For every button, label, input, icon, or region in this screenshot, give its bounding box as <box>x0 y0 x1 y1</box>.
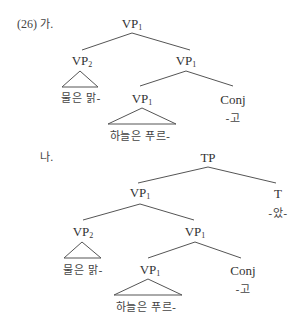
sub-example-a: 가. <box>40 18 54 31</box>
tree-a-lower-vp1-node: VP1 <box>132 92 153 107</box>
node-category: VP <box>140 262 157 277</box>
node-subscript: 1 <box>138 23 142 32</box>
example-label-a: (26) 가. <box>17 18 54 30</box>
tree-b-vp2-terminal: 물은 맑- <box>63 265 103 276</box>
tree-a-conj-node: Conj <box>220 93 245 106</box>
node-category: VP <box>185 224 202 239</box>
tree-b-lower-vp1-terminal: 하늘은 푸르- <box>116 302 177 313</box>
node-subscript: 1 <box>192 60 196 69</box>
tree-b-lower-vp1-node: VP1 <box>140 263 161 278</box>
sub-example-b: 나. <box>40 151 54 164</box>
tree-a-vp2-terminal: 물은 맑- <box>61 93 101 104</box>
tree-b-conj-node: Conj <box>230 264 255 277</box>
tree-a-root-node: VP1 <box>122 17 143 32</box>
node-subscript: 1 <box>148 98 152 107</box>
node-category: VP <box>176 53 193 68</box>
node-subscript: 1 <box>201 231 205 240</box>
node-subscript: 2 <box>89 231 93 240</box>
tree-b-tp-node: TP <box>200 151 215 164</box>
node-subscript: 2 <box>88 60 92 69</box>
tree-b-vp1-node: VP1 <box>130 186 151 201</box>
tree-b-conj-terminal: -고 <box>236 284 251 295</box>
node-subscript: 1 <box>156 269 160 278</box>
node-category: VP <box>72 53 89 68</box>
node-subscript: 1 <box>146 192 150 201</box>
example-number: (26) <box>17 17 37 31</box>
tree-b-inner-vp1-node: VP1 <box>185 225 206 240</box>
example-label-b: 나. <box>40 151 54 163</box>
tree-a-vp1-node: VP1 <box>176 54 197 69</box>
tree-b-t-terminal: -았- <box>268 208 287 219</box>
node-category: VP <box>132 91 149 106</box>
node-category: VP <box>122 16 139 31</box>
tree-a-conj-terminal: -고 <box>226 113 241 124</box>
tree-b-t-node: T <box>274 187 282 200</box>
tree-a-vp2-node: VP2 <box>72 54 93 69</box>
tree-b-vp2-node: VP2 <box>73 225 94 240</box>
tree-a-lower-vp1-terminal: 하늘은 푸르- <box>110 131 171 142</box>
node-category: VP <box>130 185 147 200</box>
node-category: VP <box>73 224 90 239</box>
